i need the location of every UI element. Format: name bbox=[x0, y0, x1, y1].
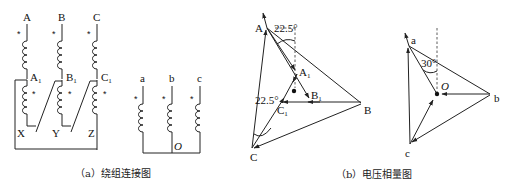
coil-icon bbox=[58, 80, 72, 126]
voltage-phasor-diagram: A B C 22.5° 22.5° A1 B1 C1 a b c O 30° （… bbox=[250, 13, 500, 180]
angle-arc bbox=[423, 70, 437, 73]
polarity-mark: * bbox=[87, 29, 91, 39]
end-label-z: Z bbox=[88, 127, 95, 139]
coil-icon bbox=[196, 86, 201, 153]
coil-icon bbox=[139, 86, 144, 153]
secondary-windings: a b c * * * O bbox=[134, 72, 202, 153]
vertex-label-c: C bbox=[250, 151, 257, 163]
phase-a-winding: A * A1 * X bbox=[17, 11, 42, 139]
neutral-dot bbox=[435, 92, 439, 96]
polarity-mark: * bbox=[162, 94, 166, 104]
coil-icon bbox=[168, 86, 173, 153]
end-label-y: Y bbox=[52, 127, 60, 139]
terminal-label-a-upper: A bbox=[23, 11, 31, 23]
terminal-label-a-lower: a bbox=[140, 72, 145, 84]
secondary-phasor: a b c O 30° bbox=[405, 28, 500, 159]
vertex-label-b: B bbox=[364, 104, 371, 116]
coil-icon bbox=[58, 41, 63, 79]
terminal-label-c-lower: c bbox=[197, 72, 202, 84]
phase-b-winding: B * B1 * Y bbox=[52, 11, 77, 139]
angle-label-top: 22.5° bbox=[274, 22, 298, 34]
polarity-mark: * bbox=[68, 89, 72, 99]
terminal-label-c-upper: C bbox=[93, 11, 100, 23]
transformer-winding-and-phasor-figure: A * A1 * X B * B1 * Y C * C1 * bbox=[0, 0, 510, 191]
coil-icon bbox=[23, 80, 37, 126]
neutral-label-o: O bbox=[174, 140, 182, 152]
winding-connection-diagram: A * A1 * X B * B1 * Y C * C1 * bbox=[15, 11, 202, 179]
vertex-label-b-lower: b bbox=[494, 92, 500, 104]
coil-icon bbox=[93, 41, 98, 79]
tap-label-a1: A1 bbox=[30, 71, 42, 85]
angle-label-left: 22.5° bbox=[255, 94, 279, 106]
tap-label-b1: B1 bbox=[311, 89, 322, 103]
neutral-label-o: O bbox=[441, 80, 449, 92]
tap-label-b1: B1 bbox=[66, 71, 77, 85]
terminal-label-b-lower: b bbox=[169, 72, 175, 84]
polarity-mark: * bbox=[32, 89, 36, 99]
vertex-label-a: A bbox=[255, 22, 263, 34]
coil-icon bbox=[93, 80, 98, 150]
tap-label-a1: A1 bbox=[299, 66, 311, 80]
angle-label-30: 30° bbox=[421, 57, 436, 69]
centroid-dot bbox=[292, 89, 296, 93]
vertex-label-a-lower: a bbox=[411, 34, 416, 46]
tap-label-c1: C1 bbox=[277, 104, 288, 118]
end-label-x: X bbox=[17, 127, 25, 139]
polarity-mark: * bbox=[17, 29, 21, 39]
terminal-label-b-upper: B bbox=[58, 11, 65, 23]
polarity-mark: * bbox=[134, 94, 138, 104]
coil-icon bbox=[23, 41, 28, 79]
polarity-mark: * bbox=[103, 89, 107, 99]
vertex-label-c-lower: c bbox=[405, 147, 410, 159]
caption-a: （a）绕组连接图 bbox=[75, 167, 151, 179]
polarity-mark: * bbox=[52, 29, 56, 39]
caption-b: （b）电压相量图 bbox=[336, 168, 412, 180]
tap-label-c1: C1 bbox=[101, 71, 112, 85]
polarity-mark: * bbox=[190, 94, 194, 104]
